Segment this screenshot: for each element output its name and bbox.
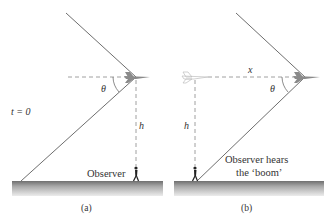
- panel-a: t = 0 θ h Observer (a): [11, 13, 163, 214]
- time-label: t = 0: [11, 106, 31, 117]
- shock-wave-lower: [197, 77, 305, 181]
- ground: [12, 181, 163, 196]
- shock-wave-lower: [21, 77, 136, 181]
- shock-wave-upper: [236, 13, 305, 77]
- angle-label: θ: [270, 83, 275, 94]
- observer-figure-icon: [134, 166, 139, 181]
- jet-plane-icon: [293, 72, 320, 83]
- jet-plane-icon: [124, 72, 150, 83]
- caption-b: (b): [241, 203, 252, 214]
- sonic-boom-diagram: t = 0 θ h Observer (a): [0, 0, 331, 220]
- angle-label: θ: [101, 83, 106, 94]
- distance-label: x: [247, 64, 253, 75]
- observer-figure-icon: [193, 166, 198, 181]
- angle-arc: [282, 77, 288, 92]
- observer-label-line1: Observer hears: [225, 154, 288, 165]
- observer-label: Observer: [87, 168, 126, 179]
- height-label: h: [184, 120, 189, 131]
- observer-label-line2: the ‘boom’: [236, 167, 282, 178]
- height-label: h: [139, 120, 144, 131]
- angle-arc: [113, 77, 119, 92]
- caption-a: (a): [81, 203, 92, 214]
- shock-wave-upper: [66, 13, 136, 77]
- panel-b: x θ h Observer hears the ‘boom’ (b): [174, 13, 324, 214]
- ground: [174, 181, 324, 196]
